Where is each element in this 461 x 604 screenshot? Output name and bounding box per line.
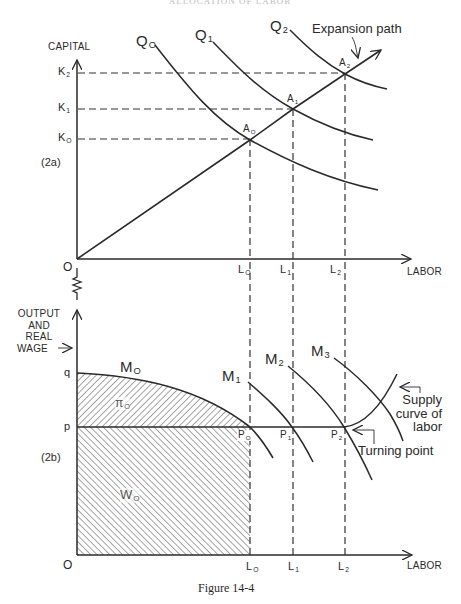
p1-main: P xyxy=(280,429,287,440)
l2-label-a: L2 xyxy=(330,264,341,277)
panel-a xyxy=(73,30,411,300)
q2-sub: 2 xyxy=(283,25,288,35)
l2-label-b: L2 xyxy=(338,561,349,574)
k2-label: K2 xyxy=(58,66,70,79)
k1-label: K1 xyxy=(58,102,70,115)
k2-main: K xyxy=(58,65,65,77)
m2-sub: 2 xyxy=(279,358,284,368)
q1-label: Q1 xyxy=(195,27,213,45)
q0-sub: O xyxy=(149,40,156,50)
l1-label-a: L1 xyxy=(280,264,291,277)
p1-label: P1 xyxy=(280,430,291,441)
m0-sub: O xyxy=(134,366,141,376)
supply-line-1: Supply xyxy=(388,393,442,407)
supply-line-2: curve of xyxy=(388,407,442,421)
wage-area xyxy=(77,427,250,555)
l0a-sub: O xyxy=(245,269,250,276)
figure-14-4: ALLOCATION OF LABOR CAPITAL K2 K1 KO (2a… xyxy=(0,0,461,604)
diagram-canvas xyxy=(0,0,461,604)
p-tick-label: p xyxy=(64,421,70,432)
l1a-sub: 1 xyxy=(287,269,291,276)
l1b-sub: 1 xyxy=(295,566,299,573)
a0-label: AO xyxy=(243,124,256,135)
l1-label-b: L1 xyxy=(288,561,299,574)
mpl-curve-m2 xyxy=(288,366,372,480)
p1-sub: 1 xyxy=(288,434,291,441)
q-tick-label: q xyxy=(64,367,70,378)
q1-main: Q xyxy=(195,26,207,43)
k1-sub: 1 xyxy=(66,107,70,114)
q2-main: Q xyxy=(270,17,282,34)
k1-main: K xyxy=(58,101,65,113)
l0b-sub: O xyxy=(253,566,258,573)
l1b-main: L xyxy=(288,560,294,572)
wage-area-label: WO xyxy=(120,488,140,503)
origin-a: O xyxy=(63,261,72,273)
wages-sub: O xyxy=(133,494,139,503)
y-label-line-1: OUTPUT xyxy=(14,308,64,320)
q0-main: Q xyxy=(136,32,148,49)
turning-pointer xyxy=(353,430,374,444)
turning-point-label: Turning point xyxy=(358,444,433,458)
l0a-main: L xyxy=(238,263,244,275)
y-label-line-2: AND xyxy=(14,320,64,332)
m1-label: M1 xyxy=(222,368,241,386)
l2b-sub: 2 xyxy=(345,566,349,573)
l0-label-b: LO xyxy=(246,561,258,574)
a2-sub: 2 xyxy=(347,62,350,69)
wages-main: W xyxy=(120,487,132,502)
k0-main: K xyxy=(58,131,65,143)
panel-b-tag: (2b) xyxy=(41,452,61,463)
panel-a-tag: (2a) xyxy=(41,157,61,168)
capital-axis-label: CAPITAL xyxy=(48,42,90,52)
m3-main: M xyxy=(311,342,324,359)
y-label-line-3: REAL xyxy=(14,331,64,343)
m3-label: M3 xyxy=(311,343,330,361)
figure-caption: Figure 14-4 xyxy=(198,582,254,594)
supply-curve-label: Supply curve of labor xyxy=(388,393,442,434)
profit-sub: O xyxy=(124,402,130,411)
origin-b: O xyxy=(63,559,72,571)
m1-sub: 1 xyxy=(236,375,241,385)
expansion-pointer xyxy=(352,37,358,58)
l0-label-a: LO xyxy=(238,264,250,277)
y-label-line-4: WAGE xyxy=(14,343,64,355)
m3-sub: 3 xyxy=(325,350,330,360)
m2-main: M xyxy=(265,350,278,367)
p2-label: P2 xyxy=(331,430,342,441)
p0-label: PO xyxy=(237,430,252,441)
panel-b xyxy=(58,262,420,555)
k0-label: KO xyxy=(58,132,72,145)
k0-sub: O xyxy=(66,137,71,144)
expansion-path-label: Expansion path xyxy=(312,22,402,36)
m0-label: MO xyxy=(120,359,141,377)
l1a-main: L xyxy=(280,263,286,275)
l2a-main: L xyxy=(330,263,336,275)
p2-sub: 2 xyxy=(339,434,342,441)
profit-area-label: πO xyxy=(115,397,130,410)
running-header: ALLOCATION OF LABOR xyxy=(150,0,310,6)
a1-label: A1 xyxy=(287,94,298,105)
m2-label: M2 xyxy=(265,351,284,369)
q2-label: Q2 xyxy=(270,18,288,36)
p0-main: P xyxy=(238,429,245,440)
a1-sub: 1 xyxy=(295,98,298,105)
l2b-main: L xyxy=(338,560,344,572)
k2-sub: 2 xyxy=(66,71,70,78)
p0-sub: O xyxy=(246,434,251,441)
output-wage-axis-label: OUTPUT AND REAL WAGE xyxy=(14,308,64,354)
profit-main: π xyxy=(115,396,123,410)
a0-sub: O xyxy=(251,128,256,135)
labor-axis-b-label: LABOR xyxy=(407,561,442,571)
labor-axis-a-label: LABOR xyxy=(407,267,442,277)
mpl-curve-m1 xyxy=(248,382,313,462)
a1-main: A xyxy=(287,93,294,104)
supply-line-3: labor xyxy=(388,420,442,434)
a2-main: A xyxy=(339,57,346,68)
p2-main: P xyxy=(331,429,338,440)
a2-label: A2 xyxy=(339,58,350,69)
q1-sub: 1 xyxy=(208,34,213,44)
axis-break-zigzag xyxy=(73,268,81,300)
m0-main: M xyxy=(120,358,133,375)
expansion-path xyxy=(77,50,381,259)
